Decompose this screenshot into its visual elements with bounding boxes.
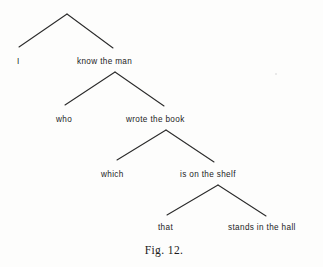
tree-leaf-label: who: [56, 116, 72, 124]
tree-leaf-label: stands in the hall: [228, 224, 296, 232]
tree-leaf-label: know the man: [77, 58, 132, 66]
tree-leaf-label: I: [17, 58, 20, 66]
tree-branch-n1-right: [67, 14, 113, 48]
tree-leaf-label: that: [158, 224, 173, 232]
tree-branch-n1-left: [19, 14, 67, 47]
tree-leaf-label: wrote the book: [126, 116, 185, 124]
tree-branch-n2-right: [115, 72, 164, 106]
tree-leaf-label: is on the shelf: [180, 171, 236, 179]
tree-branch-n3-left: [117, 130, 166, 160]
scan-speck: [275, 73, 277, 75]
figure-caption: Fig. 12.: [145, 245, 184, 257]
tree-branch-n2-left: [65, 72, 115, 105]
tree-branch-n3-right: [166, 130, 214, 162]
tree-leaf-label: which: [101, 171, 124, 179]
tree-branch-n4-left: [167, 185, 218, 215]
figure-container: Iknow the manwhowrote the bookwhichis on…: [0, 0, 323, 267]
tree-branch-n4-right: [218, 185, 266, 216]
